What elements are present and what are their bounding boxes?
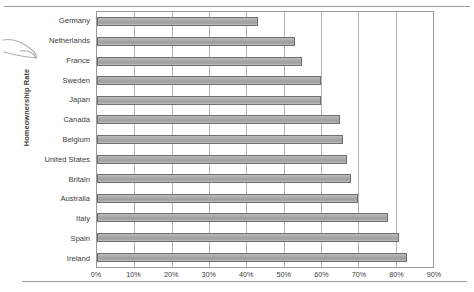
bar-row bbox=[97, 110, 433, 130]
bar-row bbox=[97, 188, 433, 208]
bar-row bbox=[97, 71, 433, 91]
category-label: Germany bbox=[24, 11, 94, 31]
x-tick-label: 70% bbox=[352, 270, 366, 279]
x-tick-label: 90% bbox=[427, 270, 441, 279]
bar bbox=[97, 155, 347, 164]
bar-row bbox=[97, 247, 433, 267]
bar-row bbox=[97, 32, 433, 52]
bar bbox=[97, 76, 321, 85]
category-label: Britain bbox=[24, 169, 94, 189]
bar-row bbox=[97, 90, 433, 110]
plot-area bbox=[96, 11, 434, 268]
category-label: Australia bbox=[24, 189, 94, 209]
category-axis: GermanyNetherlandsFranceSwedenJapanCanad… bbox=[24, 11, 94, 268]
bar-row bbox=[97, 228, 433, 248]
category-label: Belgium bbox=[24, 130, 94, 150]
bar bbox=[97, 194, 358, 203]
bar bbox=[97, 233, 399, 242]
bar bbox=[97, 115, 340, 124]
bar-row bbox=[97, 169, 433, 189]
category-label: France bbox=[24, 51, 94, 71]
x-tick-label: 40% bbox=[239, 270, 253, 279]
category-label: Sweden bbox=[24, 70, 94, 90]
x-tick-label: 10% bbox=[126, 270, 140, 279]
bar bbox=[97, 135, 343, 144]
x-tick-label: 20% bbox=[164, 270, 178, 279]
category-label: Ireland bbox=[24, 248, 94, 268]
bar-row bbox=[97, 130, 433, 150]
page-rule-top bbox=[4, 6, 470, 7]
category-label: Canada bbox=[24, 110, 94, 130]
category-label: Spain bbox=[24, 228, 94, 248]
x-tick-label: 0% bbox=[91, 270, 101, 279]
category-label: Italy bbox=[24, 209, 94, 229]
bar-row bbox=[97, 208, 433, 228]
bar bbox=[97, 253, 407, 262]
bar-row bbox=[97, 149, 433, 169]
bar bbox=[97, 37, 295, 46]
bar-row bbox=[97, 12, 433, 32]
bar bbox=[97, 213, 388, 222]
category-label: Netherlands bbox=[24, 31, 94, 51]
page-rule-bottom bbox=[22, 281, 467, 282]
bar bbox=[97, 96, 321, 105]
x-tick-label: 50% bbox=[277, 270, 291, 279]
x-tick-label: 80% bbox=[389, 270, 403, 279]
category-label: United States bbox=[24, 149, 94, 169]
category-label: Japan bbox=[24, 90, 94, 110]
x-tick-label: 60% bbox=[314, 270, 328, 279]
bar bbox=[97, 174, 351, 183]
bar bbox=[97, 57, 302, 66]
x-tick-label: 30% bbox=[201, 270, 215, 279]
bar-row bbox=[97, 51, 433, 71]
bar bbox=[97, 17, 258, 26]
bar-series bbox=[97, 12, 433, 267]
